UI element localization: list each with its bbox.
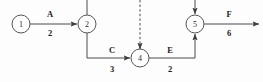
node-2-label: 2 xyxy=(85,20,89,29)
node-5[interactable]: 5 xyxy=(186,15,204,33)
node-2[interactable]: 2 xyxy=(78,15,96,33)
edge-a-duration-label: 2 xyxy=(48,28,52,38)
node-4-label: 4 xyxy=(138,54,142,63)
node-4[interactable]: 4 xyxy=(131,49,149,67)
network-diagram-canvas: 1 2 4 5 A 2 C 3 E 2 F 6 xyxy=(0,0,263,82)
edge-c-duration-label: 3 xyxy=(110,64,114,74)
edge-e-duration-label: 2 xyxy=(168,64,172,74)
node-5-label: 5 xyxy=(193,20,197,29)
node-1-label: 1 xyxy=(19,20,23,29)
edge-a-activity-label: A xyxy=(47,9,54,19)
edge-f-duration-label: 6 xyxy=(227,28,231,38)
edge-e-activity-label: E xyxy=(167,45,173,55)
network-diagram-svg: 1 2 4 5 A 2 C 3 E 2 F 6 xyxy=(0,0,263,82)
edge-f-activity-label: F xyxy=(226,9,231,19)
edge-c-activity-label: C xyxy=(109,45,115,55)
node-1[interactable]: 1 xyxy=(12,15,30,33)
